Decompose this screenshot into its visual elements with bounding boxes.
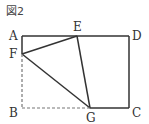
segment-FG: [22, 54, 90, 108]
segment-EG: [77, 36, 90, 108]
figure-title: 図2: [6, 5, 24, 18]
label-B: B: [9, 106, 18, 120]
geometry-figure: 図2 A E D F B G C: [0, 0, 149, 124]
label-A: A: [8, 29, 18, 43]
label-C: C: [132, 106, 141, 120]
label-D: D: [132, 29, 142, 43]
label-E: E: [73, 20, 82, 34]
segment-FE: [22, 36, 77, 54]
label-F: F: [9, 47, 17, 61]
label-G: G: [86, 111, 96, 124]
